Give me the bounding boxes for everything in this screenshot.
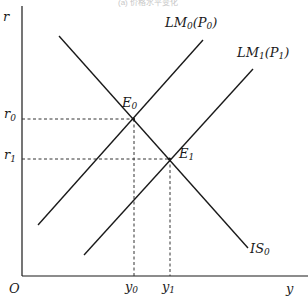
lm1-label: LM1(P1) bbox=[236, 45, 289, 61]
lm1-curve bbox=[84, 69, 253, 255]
r0-label: r0 bbox=[4, 106, 16, 123]
e0-point bbox=[132, 117, 135, 120]
islm-diagram: (a) 价格水平变化 r y O r0 r1 y0 y1 E0 E1 IS0 L… bbox=[0, 0, 308, 296]
title-fragment: (a) 价格水平变化 bbox=[118, 0, 178, 7]
y-axis-label: r bbox=[3, 9, 10, 24]
y0-label: y0 bbox=[124, 279, 138, 295]
origin-label: O bbox=[9, 281, 20, 296]
is0-label: IS0 bbox=[249, 241, 270, 257]
e1-label: E1 bbox=[178, 146, 194, 162]
lm0-label: LM0(P0) bbox=[164, 15, 217, 31]
e0-label: E0 bbox=[121, 95, 138, 111]
lm0-curve bbox=[38, 40, 203, 225]
r1-label: r1 bbox=[4, 147, 16, 164]
x-axis-label: y bbox=[285, 281, 294, 296]
y1-label: y1 bbox=[161, 279, 175, 295]
is0-curve bbox=[59, 36, 248, 248]
e1-point bbox=[168, 157, 171, 160]
